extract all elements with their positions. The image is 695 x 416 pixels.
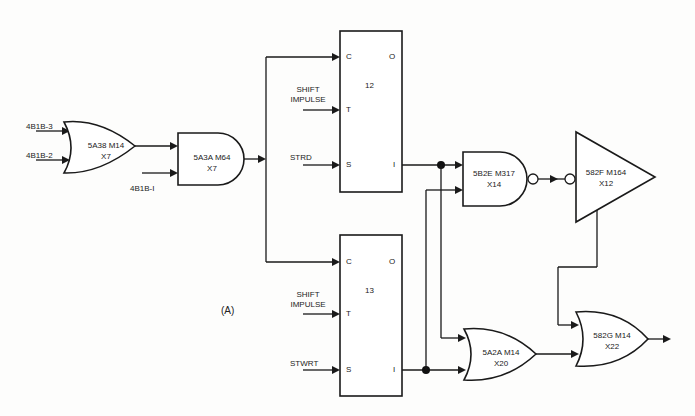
stwrt-label: STWRT — [290, 358, 318, 369]
pin-t: T — [346, 308, 351, 319]
gate-location: X12 — [576, 178, 636, 189]
input-label-4b1b-1: 4B1B-I — [130, 183, 154, 194]
arrow-icon — [332, 310, 340, 318]
gate-location: X14 — [463, 179, 525, 190]
arrow-icon — [571, 321, 579, 329]
arrow-icon — [332, 258, 340, 266]
flipflop-id: 13 — [365, 285, 374, 296]
gate-location: X7 — [76, 151, 136, 162]
arrow-icon — [571, 350, 579, 358]
arrow-icon — [332, 366, 340, 374]
arrow-icon — [458, 366, 466, 374]
output-arrow-icon — [663, 335, 671, 343]
gate-name: 5A2A M14 — [470, 347, 532, 358]
pin-c: C — [346, 256, 352, 267]
gate-name: 5B2E M317 — [463, 168, 525, 179]
pin-s: S — [346, 159, 351, 170]
gate-name: 582G M14 — [582, 330, 642, 341]
arrow-icon — [455, 186, 463, 194]
arrow-icon — [170, 142, 178, 150]
gate-location: X20 — [470, 358, 532, 369]
shift-impulse-label: IMPULSE — [282, 299, 334, 310]
arrow-icon — [332, 106, 340, 114]
inversion-bubble — [565, 174, 575, 184]
gate-name: 5A3A M64 — [182, 152, 242, 163]
arrow-icon — [455, 161, 463, 169]
inversion-bubble — [528, 174, 538, 184]
pin-s: S — [346, 364, 351, 375]
input-label-4b1b-2: 4B1B-2 — [26, 150, 53, 161]
arrow-icon — [458, 334, 466, 342]
arrow-icon — [258, 155, 266, 163]
gate-name: 5A38 M14 — [76, 140, 136, 151]
gate-location: X22 — [582, 341, 642, 352]
pin-i: I — [393, 364, 395, 375]
logic-diagram: 4B1B-3 4B1B-2 4B1B-I 5A38 M14 X7 5A3A M6… — [0, 0, 695, 416]
gate-name: 582F M164 — [576, 167, 636, 178]
figure-label: (A) — [221, 305, 234, 316]
flipflop-id: 12 — [365, 80, 374, 91]
gate-location: X7 — [182, 163, 242, 174]
arrow-icon — [550, 175, 558, 183]
arrow-icon — [332, 161, 340, 169]
arrow-icon — [332, 53, 340, 61]
input-label-4b1b-3: 4B1B-3 — [26, 121, 53, 132]
strd-label: STRD — [290, 152, 312, 163]
pin-o: O — [389, 51, 395, 62]
pin-i: I — [393, 159, 395, 170]
diagram-wiring — [0, 0, 695, 416]
pin-t: T — [346, 104, 351, 115]
pin-o: O — [389, 256, 395, 267]
shift-impulse-label: IMPULSE — [282, 94, 334, 105]
pin-c: C — [346, 51, 352, 62]
arrow-icon — [170, 169, 178, 177]
